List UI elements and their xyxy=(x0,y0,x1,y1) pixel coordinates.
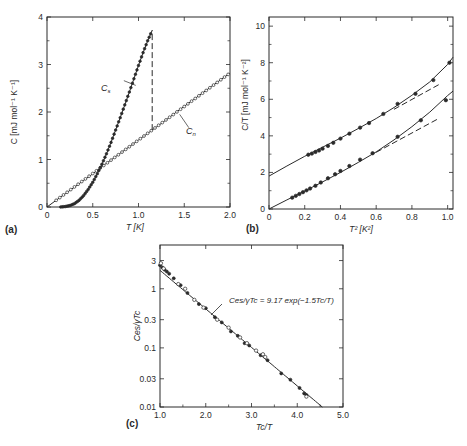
cn-marker xyxy=(55,199,58,202)
filled-data-marker xyxy=(298,386,301,389)
panel-a-ylabel: C [mJ mol⁻¹ K⁻¹] xyxy=(9,80,19,144)
x-tick-label: 0.2 xyxy=(299,212,311,222)
x-tick-label: 3.0 xyxy=(246,410,258,420)
cn-marker xyxy=(113,156,116,159)
cs-marker xyxy=(130,86,133,89)
panel-a-data xyxy=(47,30,230,208)
cn-marker xyxy=(179,108,182,111)
y-tick-label: 3 xyxy=(151,256,156,266)
y-tick-label: 2 xyxy=(38,107,43,117)
cs-marker xyxy=(143,47,146,50)
panel-b-label: (b) xyxy=(246,223,259,234)
open-data-marker xyxy=(193,298,196,301)
open-data-marker xyxy=(215,318,218,321)
cs-marker xyxy=(142,51,145,54)
cs-marker xyxy=(108,145,111,148)
cs-marker xyxy=(146,39,149,42)
cs-marker xyxy=(99,166,102,169)
cn-marker xyxy=(223,76,226,79)
filled-data-marker xyxy=(197,303,200,306)
cn-marker xyxy=(190,100,193,103)
cn-marker xyxy=(84,177,87,180)
cs-marker xyxy=(120,112,123,115)
cs-marker xyxy=(137,64,140,67)
filled-data-marker xyxy=(186,291,189,294)
cn-marker xyxy=(208,86,211,89)
cs-marker xyxy=(145,43,148,46)
panel-c-chart: 1.02.03.04.05.00.010.030.10.313 Ces/γTc … xyxy=(126,245,349,432)
linear-extrapolation xyxy=(376,119,439,153)
cn-marker xyxy=(124,148,127,151)
panel-c-label: (c) xyxy=(126,418,138,429)
cn-marker xyxy=(62,194,65,197)
cn-marker xyxy=(128,145,131,148)
y-tick-label: 8 xyxy=(260,58,265,68)
y-tick-label: 0 xyxy=(38,202,43,212)
panel-b-chart: 00.20.40.60.81.00246810 T² [K²] C/T [mJ … xyxy=(240,17,454,234)
cs-marker xyxy=(95,175,98,178)
y-tick-label: 4 xyxy=(38,12,43,22)
data-marker xyxy=(444,99,447,102)
cn-marker xyxy=(73,186,76,189)
open-data-marker xyxy=(183,287,186,290)
cs-marker xyxy=(148,36,151,39)
cs-marker xyxy=(125,99,128,102)
panel-a-xlabel: T [K] xyxy=(126,222,145,232)
x-tick-label: 0 xyxy=(267,212,272,222)
cs-line xyxy=(61,30,153,207)
panel-b-data xyxy=(269,57,453,209)
cn-marker xyxy=(135,140,138,143)
cn-marker xyxy=(183,105,186,108)
open-data-marker xyxy=(162,267,165,270)
y-tick-label: 1 xyxy=(38,155,43,165)
panel-b-frame xyxy=(269,17,453,209)
cn-marker xyxy=(172,113,175,116)
y-tick-label: 0 xyxy=(260,204,265,214)
cs-marker xyxy=(91,181,94,184)
y-tick-label: 10 xyxy=(256,21,266,31)
filled-data-marker xyxy=(168,272,171,275)
x-tick-label: 1.0 xyxy=(133,210,145,220)
filled-data-marker xyxy=(289,378,292,381)
panel-a-label: (a) xyxy=(5,224,17,235)
open-data-marker xyxy=(264,355,267,358)
panel-a-chart: 00.51.01.52.001234 Cs Cn T [K] C [mJ mol… xyxy=(5,12,236,235)
cn-marker xyxy=(77,183,80,186)
filled-data-marker xyxy=(172,277,175,280)
cn-marker xyxy=(69,188,72,191)
cs-marker xyxy=(149,32,152,35)
linear-extrapolation xyxy=(394,85,439,110)
cn-marker xyxy=(168,116,171,119)
x-tick-label: 0.8 xyxy=(406,212,418,222)
cs-marker xyxy=(114,129,117,132)
cn-marker xyxy=(139,137,142,140)
x-tick-label: 4.0 xyxy=(291,410,303,420)
panel-b-ylabel: C/T [mJ mol⁻¹ K⁻²] xyxy=(240,59,250,131)
cn-marker xyxy=(88,175,91,178)
cs-marker xyxy=(136,69,139,72)
cn-marker xyxy=(106,161,109,164)
x-tick-label: 1.5 xyxy=(178,210,190,220)
cs-marker xyxy=(119,116,122,119)
cs-marker xyxy=(140,56,143,59)
y-tick-label: 4 xyxy=(260,131,265,141)
cs-marker xyxy=(116,125,119,128)
panel-c-equation: Ces/γTc = 9.17 exp(−1.5Tc/T) xyxy=(229,296,334,305)
filled-data-marker xyxy=(229,330,232,333)
cn-marker xyxy=(161,121,164,124)
x-tick-label: 5.0 xyxy=(337,410,349,420)
x-tick-label: 0.5 xyxy=(87,210,99,220)
panel-c-ticks: 1.02.03.04.05.00.010.030.10.313 xyxy=(139,245,349,420)
cn-marker xyxy=(157,124,160,127)
cn-marker xyxy=(146,132,149,135)
cs-marker xyxy=(134,73,137,76)
cn-marker xyxy=(121,151,124,154)
cn-marker xyxy=(212,84,215,87)
cn-marker xyxy=(197,94,200,97)
equation-leader-line xyxy=(211,304,222,315)
cs-marker xyxy=(101,163,104,166)
cs-marker xyxy=(105,153,108,156)
figure: 00.51.01.52.001234 Cs Cn T [K] C [mJ mol… xyxy=(0,0,467,446)
cn-marker xyxy=(187,102,190,105)
x-tick-label: 2.0 xyxy=(200,410,212,420)
